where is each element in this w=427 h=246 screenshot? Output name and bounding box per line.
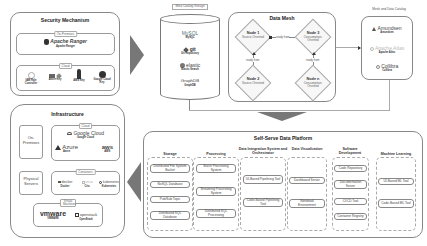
mesh-catalog-title-text: Mesh and Data Catalog — [372, 7, 406, 11]
amundsen-caption: Amundsen — [362, 31, 412, 35]
collibra-icon — [376, 65, 380, 69]
iam-caption: IAM Role Controller — [21, 79, 41, 85]
infrastructure-panel: Infrastructure On-Premises Cloud Google … — [10, 104, 125, 238]
cylinder-top-ellipse — [160, 14, 220, 24]
elastic-caption: Elastic Search — [160, 68, 220, 72]
mysql-logo: MySQL MySQL — [160, 30, 220, 40]
atlas-caption: Apache Atlas — [362, 51, 412, 55]
mesh-catalog-title: Mesh and Data Catalog — [365, 8, 413, 12]
processing-item: Streaming Processing System — [196, 187, 236, 196]
column-title-processing: Processing — [193, 152, 239, 156]
containers-label: Containers — [75, 169, 96, 175]
vmware-caption: VMWARE — [39, 217, 67, 221]
vmware-logo: vmware VMWARE — [39, 211, 67, 221]
node-type: Source-Oriented — [234, 82, 272, 85]
git-logo: git Git Repository — [160, 46, 220, 56]
storage-item: Distributed SQL Database — [150, 211, 190, 220]
google-cloud-logo: Google Cloud Google Cloud — [52, 130, 119, 140]
crio-icon — [82, 181, 85, 184]
atlas-icon — [370, 47, 374, 51]
software-development-item: CI/CD Tool — [334, 198, 367, 205]
security-mechanism-panel: Security Mechanism On-Premises Apache Ra… — [10, 12, 120, 96]
data-visualization-item: Notebook Environment — [289, 199, 325, 208]
mesh-node-1: Node 1 Source-Oriented — [234, 18, 272, 56]
aws-key-item: AWS Key — [69, 69, 89, 83]
metadata-storage-label: Meta Catalog Storage — [172, 4, 208, 10]
docker-logo: docker Docker — [55, 179, 75, 189]
mysql-caption: MySQL — [160, 36, 220, 40]
arrow-up-icon — [312, 52, 316, 55]
cloud-infra-group: Cloud Google Cloud Google Cloud Azure Az… — [51, 125, 120, 161]
column-title-data-visualization: Data Visualization — [288, 147, 326, 151]
ranger-caption: Apache Ranger — [17, 45, 114, 49]
arrow-left-icon — [127, 162, 141, 202]
azure-icon — [55, 145, 61, 150]
data-integration-item: UI-Based Pipelining Tool — [243, 175, 283, 184]
software-development-item: Documentation Server — [334, 180, 367, 189]
vm-label: Virtual Machines — [60, 199, 76, 207]
on-premises-box: On-Premises — [19, 125, 43, 159]
storage-item: Pub/Sub Topic — [150, 196, 190, 203]
azure-caption: Azure — [55, 150, 78, 154]
column-data-visualization — [287, 157, 327, 231]
physical-servers-box: Physical Servers — [19, 171, 43, 195]
apache-atlas-logo: Apache Atlas Apache Atlas — [362, 45, 412, 55]
ranger-logo-text: Apache Ranger — [50, 38, 87, 44]
graphdb-logo: GraphDB GraphDB — [160, 78, 220, 88]
crio-logo-text: cri-o — [86, 180, 93, 184]
node-type: Source-Oriented — [234, 36, 272, 39]
amundsen-logo: Amundsen Amundsen — [362, 25, 412, 35]
google-cloud-caption: Google Cloud — [52, 136, 119, 140]
apache-ranger-logo: Apache Ranger Apache Ranger — [17, 38, 114, 49]
connector-line — [189, 100, 190, 110]
collibra-caption: Collibra — [362, 69, 412, 73]
storage-item: NoSQL Database — [150, 181, 190, 188]
mesh-node-n: Node n Consumption-Oriented — [294, 64, 332, 102]
column-title-data-integration: Data Integration System and Orchestrator — [237, 147, 289, 155]
on-premises-group: On-Premises Apache Ranger Apache Ranger — [16, 33, 115, 55]
git-caption: Git Repository — [160, 52, 220, 56]
amundsen-icon — [372, 27, 376, 31]
google-cloud-icon — [67, 132, 72, 135]
azure-key-item: Azure Key — [45, 72, 65, 82]
arrow-down-icon — [257, 112, 307, 121]
mesh-node-3: Node 3 Consumption-Oriented — [294, 18, 332, 56]
gcp-key-item: Google Cloud Key — [91, 71, 113, 84]
arrow-left-icon — [269, 36, 272, 39]
cloud-security-group: Cloud IAM Role Controller Azure Key AWS … — [16, 65, 115, 91]
aws-key-caption: AWS Key — [69, 79, 89, 83]
graphdb-caption: GraphDB — [160, 84, 220, 88]
column-title-software-development: Software Development — [331, 147, 369, 155]
edge-label: ready from — [246, 58, 259, 62]
openstack-icon — [75, 213, 79, 217]
collibra-logo: Collibra Collibra — [362, 63, 412, 73]
ranger-shield-icon — [44, 39, 49, 45]
column-title-storage: Storage — [147, 152, 193, 156]
security-title: Security Mechanism — [11, 17, 119, 23]
containers-group: Containers docker Docker cri-o Crio kube… — [51, 171, 120, 195]
arrow-up-icon — [252, 52, 256, 55]
arrow-right-icon — [130, 35, 144, 75]
on-premises-text: On-Premises — [21, 136, 41, 145]
metadata-storage-title: Meta Catalog Storage — [175, 4, 204, 8]
docker-caption: Docker — [55, 185, 75, 189]
elastic-logo: elastic Elastic Search — [160, 62, 220, 72]
column-machine-learning — [376, 157, 416, 231]
platform-title: Self-Serve Data Platform — [144, 135, 422, 141]
key-icon — [77, 69, 81, 79]
openstack-logo-text: openstack — [80, 213, 97, 217]
physical-servers-text: Physical Servers — [21, 177, 41, 186]
docker-icon — [58, 181, 61, 183]
infrastructure-title: Infrastructure — [11, 111, 124, 117]
kubernetes-caption: Kubernetes — [98, 185, 120, 189]
column-data-integration — [240, 157, 286, 231]
processing-item: Distributed SQL Processing — [196, 209, 236, 218]
crio-logo: cri-o Crio — [77, 179, 97, 189]
machine-learning-item: Code-Based ML Tool — [378, 199, 414, 208]
kubernetes-logo: kubernetes Kubernetes — [98, 179, 120, 189]
node-type: Consumption-Oriented — [294, 82, 332, 89]
aws-logo: aws AWS — [102, 144, 113, 154]
virtual-machines-group: Virtual Machines vmware VMWARE openstack… — [33, 203, 103, 227]
iam-item: IAM Role Controller — [21, 72, 41, 85]
mesh-catalog-panel: Amundsen Amundsen Apache Atlas Apache At… — [361, 16, 413, 80]
